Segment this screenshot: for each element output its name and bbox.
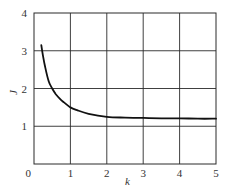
x-tick-label: 4 [177, 167, 183, 179]
y-tick-label: 2 [22, 83, 28, 95]
x-tick-label: 3 [140, 167, 146, 179]
x-tick-label: 0 [26, 167, 32, 179]
x-tick-labels: 012345 [26, 167, 220, 179]
y-tick-label: 3 [22, 45, 28, 57]
chart: 012345 1234 k J [0, 0, 230, 194]
y-tick-labels: 1234 [22, 7, 28, 132]
x-tick-label: 2 [104, 167, 110, 179]
data-curve [41, 45, 216, 119]
x-tick-label: 5 [213, 167, 219, 179]
y-axis-label: J [7, 89, 19, 95]
y-tick-label: 1 [22, 120, 28, 132]
x-tick-label: 1 [68, 167, 74, 179]
y-tick-label: 4 [22, 7, 28, 19]
gridlines [34, 13, 216, 164]
x-axis-label: k [125, 175, 131, 187]
